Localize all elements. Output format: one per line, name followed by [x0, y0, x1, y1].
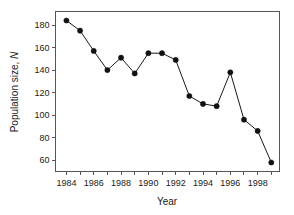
x-axis-title-text: Year — [157, 196, 178, 207]
y-tick-label: 180 — [34, 20, 49, 30]
x-axis-ticks: 19841986198819901992199419961998 — [56, 172, 271, 188]
data-point-marker — [200, 101, 205, 106]
data-point-marker — [228, 70, 233, 75]
data-point-marker — [214, 104, 219, 109]
data-point-marker — [118, 55, 123, 60]
chart-canvas: 6080100120140160180 19841986198819901992… — [0, 0, 294, 215]
y-axis-ticks: 6080100120140160180 — [34, 20, 55, 165]
y-axis-title-symbol: N — [9, 51, 20, 59]
y-axis-title: Population size, N — [9, 51, 20, 132]
y-axis-title-text: Population size, N — [9, 51, 20, 132]
data-point-marker — [91, 48, 96, 53]
x-tick-label: 1998 — [248, 178, 268, 188]
data-point-marker — [173, 57, 178, 62]
x-tick-label: 1994 — [193, 178, 213, 188]
population-size-line-chart: 6080100120140160180 19841986198819901992… — [0, 0, 294, 215]
data-point-marker — [146, 51, 151, 56]
y-tick-label: 80 — [39, 133, 49, 143]
data-point-marker — [255, 128, 260, 133]
y-tick-label: 160 — [34, 43, 49, 53]
data-point-marker — [64, 18, 69, 23]
data-point-marker — [77, 28, 82, 33]
data-point-marker — [187, 93, 192, 98]
y-axis-title-plain: Population size, — [9, 59, 20, 132]
series-line-population — [66, 21, 271, 163]
data-point-marker — [159, 51, 164, 56]
x-tick-label: 1988 — [111, 178, 131, 188]
x-tick-label: 1986 — [84, 178, 104, 188]
x-tick-label: 1984 — [56, 178, 76, 188]
y-tick-label: 100 — [34, 110, 49, 120]
data-point-marker — [269, 160, 274, 165]
y-tick-label: 120 — [34, 88, 49, 98]
data-point-marker — [241, 117, 246, 122]
data-point-marker — [105, 67, 110, 72]
data-point-marker — [132, 71, 137, 76]
series-markers-population — [64, 18, 274, 165]
y-tick-label: 140 — [34, 65, 49, 75]
plot-frame — [56, 12, 280, 172]
x-tick-label: 1996 — [220, 178, 240, 188]
x-tick-label: 1992 — [166, 178, 186, 188]
y-tick-label: 60 — [39, 155, 49, 165]
x-tick-label: 1990 — [138, 178, 158, 188]
